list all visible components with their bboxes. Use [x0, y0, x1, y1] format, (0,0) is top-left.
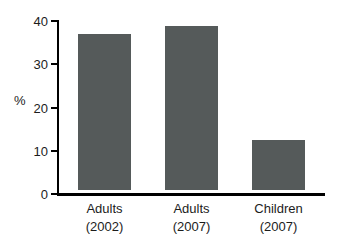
y-tick-mark	[51, 193, 58, 195]
y-tick-label: 0	[41, 188, 48, 201]
y-tick-mark	[51, 150, 58, 152]
x-axis-category-label-line: (2002)	[58, 218, 151, 236]
y-tick-label: 40	[34, 15, 48, 28]
plot-area: 010203040	[57, 20, 325, 193]
x-axis-category-label-line: (2007)	[232, 218, 325, 236]
bar	[252, 140, 305, 190]
x-axis-category-label: Adults(2007)	[145, 200, 238, 235]
bar	[78, 34, 131, 190]
x-axis-category-label-line: Children	[232, 200, 325, 218]
y-tick-label: 20	[34, 101, 48, 114]
x-axis-category-label-line: Adults	[145, 200, 238, 218]
x-axis-category-label-line: (2007)	[145, 218, 238, 236]
y-tick-mark	[51, 107, 58, 109]
x-axis-category-label-line: Adults	[58, 200, 151, 218]
x-axis-category-label: Children(2007)	[232, 200, 325, 235]
y-tick-mark	[51, 20, 58, 22]
x-axis-category-label: Adults(2002)	[58, 200, 151, 235]
bar-chart: % 010203040 Adults(2002)Adults(2007)Chil…	[0, 0, 340, 245]
bar	[165, 26, 218, 190]
x-axis-line	[57, 193, 325, 196]
y-tick-label: 30	[34, 58, 48, 71]
y-tick-mark	[51, 63, 58, 65]
y-axis-title: %	[14, 94, 26, 107]
y-tick-label: 10	[34, 144, 48, 157]
